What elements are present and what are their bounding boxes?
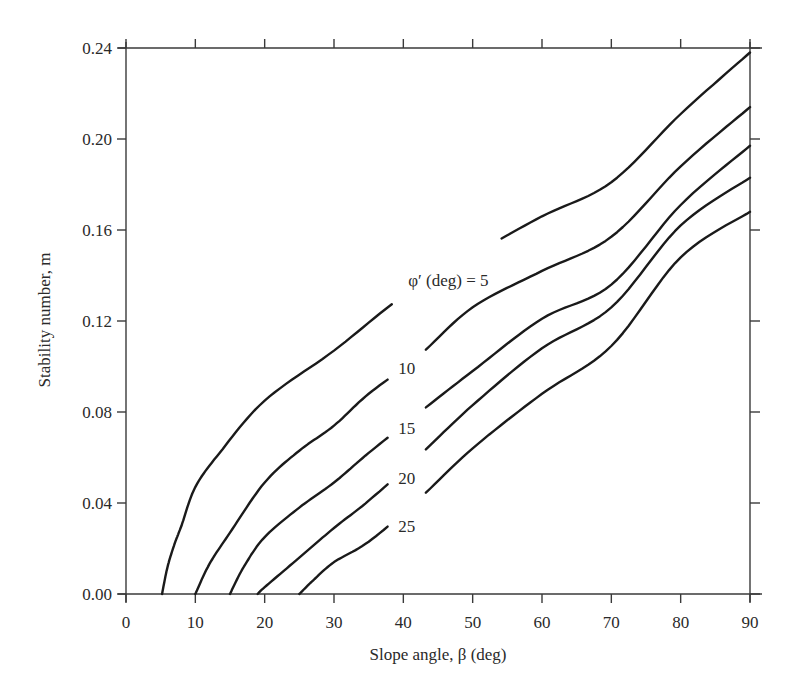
curve-phi-20 [426, 178, 750, 450]
curve-label-phi-15: 15 [398, 419, 415, 438]
x-tick-label: 10 [187, 613, 204, 632]
y-tick-label: 0.00 [82, 585, 112, 604]
curve-phi-5 [502, 53, 750, 239]
x-tick-label: 50 [464, 613, 481, 632]
curve-label-phi-10: 10 [398, 359, 415, 378]
curve-phi-15 [230, 438, 388, 594]
curve-phi-10 [426, 107, 750, 350]
curves [162, 53, 750, 595]
y-tick-label: 0.12 [82, 312, 112, 331]
x-tick-label: 60 [534, 613, 551, 632]
x-tick-label: 80 [672, 613, 689, 632]
x-tick-label: 70 [603, 613, 620, 632]
y-axis-label: Stability number, m [35, 253, 54, 388]
y-tick-label: 0.20 [82, 130, 112, 149]
y-tick-label: 0.08 [82, 403, 112, 422]
x-tick-label: 40 [395, 613, 412, 632]
curve-label-phi-5: φ′ (deg) = 5 [408, 271, 488, 290]
y-tick-label: 0.16 [82, 221, 112, 240]
y-tick-label: 0.04 [82, 494, 112, 513]
curve-label-phi-20: 20 [398, 469, 415, 488]
stability-chart-svg: 01020304050607080900.000.040.080.120.160… [0, 0, 795, 697]
x-tick-label: 30 [326, 613, 343, 632]
x-tick-label: 20 [256, 613, 273, 632]
curve-phi-20 [258, 484, 388, 594]
curve-phi-10 [195, 380, 387, 594]
curve-phi-5 [162, 304, 392, 594]
axes: 01020304050607080900.000.040.080.120.160… [82, 39, 762, 632]
y-tick-label: 0.24 [82, 39, 112, 58]
curve-label-phi-25: 25 [398, 517, 415, 536]
x-axis-label: Slope angle, β (deg) [369, 645, 506, 664]
x-tick-label: 0 [122, 613, 131, 632]
curve-phi-25 [426, 212, 750, 493]
curve-phi-25 [299, 527, 387, 594]
chart: 01020304050607080900.000.040.080.120.160… [0, 0, 795, 697]
x-tick-label: 90 [742, 613, 759, 632]
